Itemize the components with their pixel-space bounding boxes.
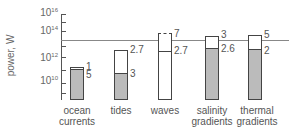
bar-fill bbox=[115, 73, 127, 99]
bar-inner-label: 3 bbox=[130, 68, 136, 79]
tick-label-1e14: 1014 bbox=[22, 25, 58, 36]
tick-label-1e16: 1016 bbox=[22, 7, 58, 18]
tick bbox=[61, 70, 66, 71]
tick bbox=[61, 83, 66, 84]
tick bbox=[61, 57, 66, 58]
tick-label-1e10: 1010 bbox=[22, 75, 58, 86]
category-label: thermalgradients bbox=[227, 105, 287, 127]
tick bbox=[61, 93, 66, 94]
bar-inner-label: 5 bbox=[86, 69, 92, 80]
bar-fill bbox=[249, 49, 261, 99]
bar-thermal-gradients bbox=[248, 35, 262, 100]
bar-waves bbox=[158, 33, 172, 100]
bar-top-label: 3 bbox=[221, 29, 227, 40]
bar-ocean-currents bbox=[70, 67, 84, 100]
tick bbox=[61, 46, 66, 47]
bar-top-label: 7 bbox=[174, 28, 180, 39]
bar-top-label: 2.7 bbox=[130, 44, 144, 55]
bar-fill bbox=[71, 69, 83, 99]
bar-tides bbox=[114, 50, 128, 100]
tick bbox=[61, 31, 66, 32]
bar-top-label: 5 bbox=[264, 29, 270, 40]
y-axis-label: power, W bbox=[5, 35, 16, 77]
tick bbox=[61, 14, 66, 15]
bar-fill bbox=[206, 48, 218, 99]
bar-divider bbox=[159, 51, 171, 52]
bar-inner-label: 2.7 bbox=[174, 45, 188, 56]
tick bbox=[61, 22, 66, 23]
bar-salinity-gradients bbox=[205, 36, 219, 100]
bar-inner-label: 2.6 bbox=[221, 43, 235, 54]
tick-label-1e12: 1012 bbox=[22, 52, 58, 63]
bar-inner-label: 2 bbox=[264, 45, 270, 56]
